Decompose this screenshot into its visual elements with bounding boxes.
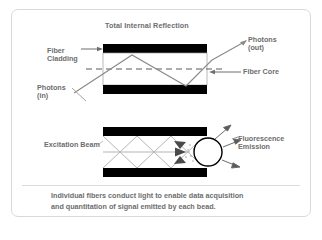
caption-line-2: and quantitation of signal emitted by ea… <box>51 201 291 212</box>
lower-bottom-cladding-bar <box>103 168 207 177</box>
fiber-core-leader <box>209 70 241 74</box>
lower-fiber-assembly <box>103 125 241 177</box>
upper-top-cladding-bar <box>103 44 207 53</box>
label-fiber-cladding: Fiber Cladding <box>47 47 78 64</box>
figure-caption: Individual fibers conduct light to enabl… <box>51 190 291 212</box>
lower-top-cladding-bar <box>103 127 207 136</box>
diagram-title: Total Internal Reflection <box>105 22 189 30</box>
label-excitation-beam: Excitation Beam <box>44 141 100 149</box>
fiber-cladding-leader <box>81 47 103 51</box>
bead-circle <box>194 138 222 166</box>
caption-divider <box>22 185 300 186</box>
upper-bottom-cladding-bar <box>103 85 207 94</box>
photon-exit-arrowhead <box>240 40 247 46</box>
label-fiber-core: Fiber Core <box>243 68 279 76</box>
caption-line-1: Individual fibers conduct light to enabl… <box>51 190 291 201</box>
label-photons-out: Photons (out) <box>248 36 277 53</box>
label-fluorescence-emission: Fluorescence Emission <box>238 135 284 152</box>
label-photons-in: Photons (in) <box>37 84 66 101</box>
photon-exit-ray <box>212 41 246 60</box>
